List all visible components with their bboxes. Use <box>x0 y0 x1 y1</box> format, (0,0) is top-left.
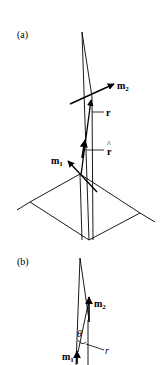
construction-lines-b <box>76 258 89 365</box>
m1-label-b: m1 <box>62 351 74 364</box>
theta-label: θ <box>77 328 82 339</box>
r-hat-accent: ^ <box>107 140 111 149</box>
panel-b: (b) m2 θ r m1 <box>17 256 109 365</box>
r-label: r <box>106 107 111 118</box>
m2-label-b: m2 <box>94 298 106 311</box>
panel-b-label: (b) <box>17 256 29 268</box>
theta-arc <box>78 340 86 344</box>
panel-a-label: (a) <box>17 29 28 41</box>
r-label-b: r <box>105 345 109 356</box>
m2-label: m2 <box>117 80 129 93</box>
dipole-diagram: (a) m2 r r ^ m <box>0 0 165 365</box>
r-leader-line-b <box>86 344 104 350</box>
panel-a: (a) m2 r r ^ m <box>17 29 155 240</box>
base-plane <box>17 174 155 240</box>
m1-label: m1 <box>51 155 63 168</box>
